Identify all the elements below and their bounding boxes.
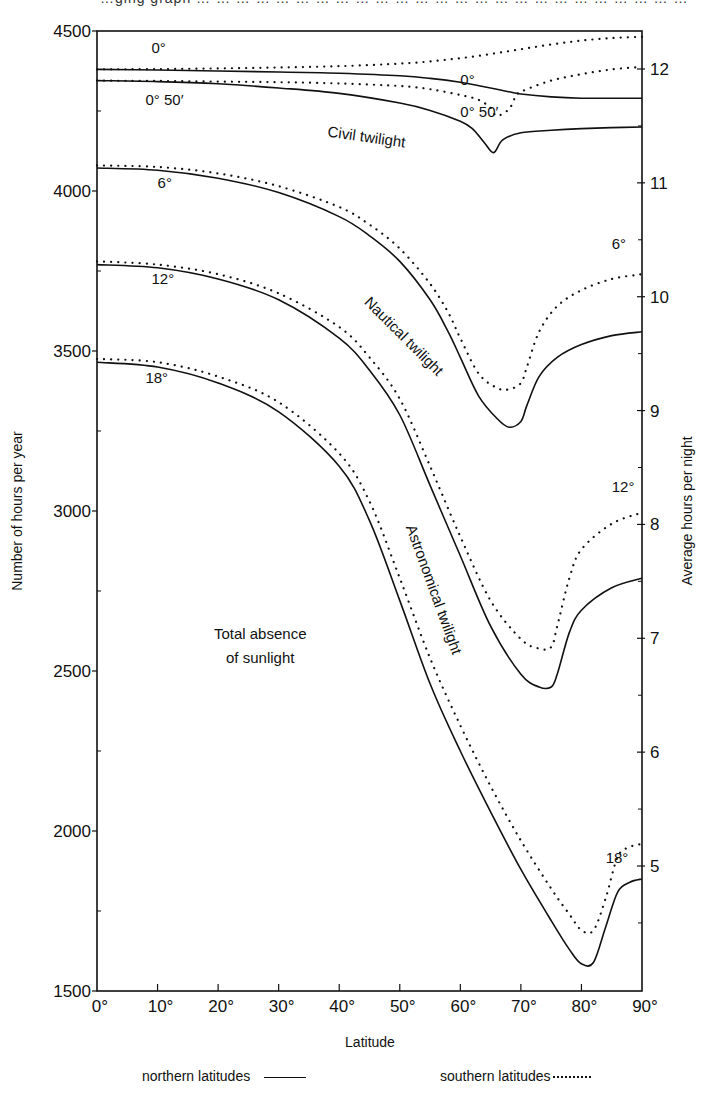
series-line: 18° (southern) (97, 359, 642, 933)
twilight-chart: 15002000250030003500400045000°10°20°30°4… (0, 0, 707, 1060)
curve-label: 0° (152, 39, 166, 56)
legend-northern-label: northern latitudes (142, 1068, 250, 1084)
curve-label: 0° (460, 71, 474, 88)
curve-label: 18° (145, 369, 168, 386)
legend-northern: northern latitudes (142, 1068, 306, 1084)
right-y-tick-label: 11 (650, 174, 668, 193)
right-y-axis-title: Average hours per night (679, 436, 695, 585)
region-label: Total absence (214, 625, 307, 642)
right-y-tick-label: 5 (650, 857, 659, 876)
y-tick-label: 2000 (53, 822, 91, 841)
x-tick-label: 20° (208, 997, 234, 1016)
series-line: 6° (southern) (97, 165, 642, 390)
series-layer: 0° (northern)0° (southern)0° 50′ (northe… (97, 37, 642, 966)
dotted-line-swatch-icon (553, 1076, 591, 1078)
x-axis-title: Latitude (345, 1034, 395, 1050)
right-y-tick-label: 6 (650, 743, 659, 762)
curve-label: 12° (152, 270, 175, 287)
x-tick-label: 10° (148, 997, 174, 1016)
region-label: of sunlight (226, 649, 295, 666)
curve-label: 0° 50′ (145, 91, 183, 108)
curve-label: 12° (612, 478, 635, 495)
legend-southern-label: southern latitudes (440, 1068, 551, 1084)
series-line: 12° (southern) (97, 261, 642, 649)
curve-label: 6° (158, 174, 172, 191)
plot-frame (97, 31, 642, 991)
right-y-tick-label: 9 (650, 402, 659, 421)
plot-axes: 15002000250030003500400045000°10°20°30°4… (53, 22, 669, 1016)
y-tick-label: 3000 (53, 502, 91, 521)
x-tick-label: 70° (511, 997, 537, 1016)
x-tick-label: 50° (390, 997, 416, 1016)
y-tick-label: 1500 (53, 982, 91, 1001)
right-y-tick-label: 10 (650, 288, 669, 307)
annotation-layer: 0°0°0° 50′0° 50′Civil twilight6°Nautical… (145, 39, 634, 866)
y-tick-label: 3500 (53, 342, 91, 361)
x-tick-label: 60° (450, 997, 476, 1016)
solid-line-swatch-icon (264, 1077, 306, 1078)
right-y-tick-label: 8 (650, 515, 659, 534)
curve-label: 18° (606, 849, 629, 866)
x-tick-label: 90° (632, 997, 658, 1016)
legend-southern: southern latitudes (440, 1068, 591, 1084)
region-label: Civil twilight (327, 123, 408, 151)
right-y-tick-label: 12 (650, 60, 669, 79)
curve-label: 0° 50′ (460, 103, 498, 120)
y-tick-label: 4500 (53, 22, 91, 41)
y-axis-title: Number of hours per year (9, 431, 25, 591)
x-tick-label: 0° (92, 997, 108, 1016)
x-tick-label: 40° (329, 997, 355, 1016)
x-tick-label: 80° (572, 997, 598, 1016)
curve-label: 6° (612, 235, 626, 252)
x-tick-label: 30° (269, 997, 295, 1016)
series-line: 0° (southern) (97, 37, 642, 70)
series-line: 12° (northern) (97, 265, 642, 689)
y-tick-label: 2500 (53, 662, 91, 681)
y-tick-label: 4000 (53, 182, 91, 201)
right-y-tick-label: 7 (650, 629, 659, 648)
